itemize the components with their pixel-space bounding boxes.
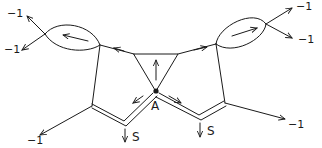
right-vertical-leg [216, 44, 225, 103]
right-down-weight-label: −1 [298, 33, 314, 46]
left-down-weight-label: −1 [4, 43, 20, 56]
source-right-label: S [207, 124, 215, 138]
right-up-arrow-icon [266, 8, 292, 24]
left-up-arrow-icon [27, 16, 45, 34]
right-down-arrow-icon [266, 24, 292, 38]
left-loop-arrow-icon [63, 35, 88, 41]
left-down-arrow-icon [22, 34, 45, 50]
center-triangle [134, 54, 178, 91]
right-loop-arrow-icon [232, 28, 257, 36]
source-left-label: S [132, 130, 140, 144]
bottom-right-arrow-icon [225, 103, 285, 119]
left-loop [45, 25, 100, 50]
right-loop [216, 18, 266, 48]
diagram-canvas: −1 −1 −1 −1 A −1 −1 S S [0, 0, 322, 148]
left-vertical-leg [92, 45, 100, 106]
left-link-line [100, 45, 134, 54]
left-double-line [92, 93, 157, 126]
bottom-right-weight-label: −1 [288, 118, 304, 131]
a-left-arrow-icon [133, 96, 143, 103]
right-link-arrow-icon [194, 47, 207, 50]
bottom-left-weight-label: −1 [27, 134, 43, 147]
vertex-a-dot [153, 88, 158, 93]
bottom-left-arrow-icon [40, 106, 92, 135]
left-up-weight-label: −1 [7, 7, 23, 20]
right-double-line [156, 93, 226, 120]
right-up-weight-label: −1 [296, 0, 312, 13]
